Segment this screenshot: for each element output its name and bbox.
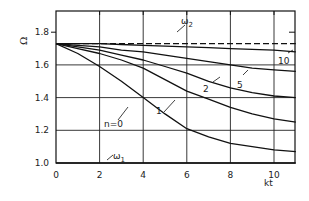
curve-label: ω1	[113, 151, 125, 164]
y-axis-title: Ω	[18, 37, 29, 45]
series-lines	[56, 44, 296, 163]
annotation-leader	[213, 77, 220, 82]
annotation-leader	[164, 100, 175, 112]
y-tick-label: 1.0	[35, 158, 50, 168]
curve-label: n=0	[104, 119, 123, 129]
ticks	[51, 11, 295, 32]
plot-frame	[56, 11, 295, 163]
x-tick-label: 4	[140, 170, 146, 180]
x-tick-label: 0	[53, 170, 59, 180]
annotation-leader	[177, 25, 185, 32]
y-tick-labels: 1.01.21.41.61.8	[35, 27, 50, 168]
y-tick-label: 1.4	[35, 93, 50, 103]
curve-label: 2	[203, 84, 209, 94]
curve-label: 1	[156, 106, 162, 116]
x-tick-labels: 0246810	[53, 170, 280, 180]
series-line-n10	[56, 44, 296, 52]
grid	[56, 11, 295, 163]
y-tick-label: 1.6	[35, 60, 50, 70]
curve-label: 5	[237, 80, 243, 90]
x-tick-label: 8	[228, 170, 234, 180]
annotation-leader	[243, 70, 248, 75]
x-tick-label: 6	[184, 170, 190, 180]
chart: 0246810 1.01.21.41.61.8 ω210521n=0ω1 kt …	[0, 0, 309, 201]
y-tick-label: 1.8	[35, 27, 50, 37]
curve-label: 10	[278, 56, 290, 66]
series-line-n1	[56, 44, 296, 123]
x-axis-title: kt	[264, 178, 273, 188]
y-tick-label: 1.2	[35, 125, 49, 135]
series-line-n5	[56, 44, 296, 72]
x-tick-label: 2	[97, 170, 103, 180]
